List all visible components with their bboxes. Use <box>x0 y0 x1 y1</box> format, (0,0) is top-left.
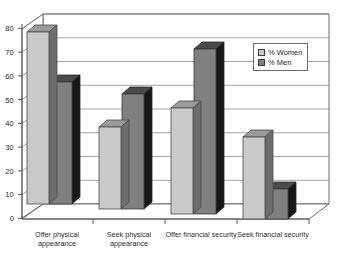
y-tick-label-60: 60 <box>0 72 14 81</box>
x-category-label-0: Offer physical appearance <box>16 230 98 248</box>
legend-swatch-women-icon <box>258 49 265 56</box>
legend-label-women: % Women <box>268 48 302 57</box>
bar-chart: 0 10 20 30 40 50 60 70 80 <box>0 0 344 276</box>
chart-legend: % Women % Men <box>253 43 308 71</box>
y-tick-label-30: 30 <box>0 143 14 152</box>
x-category-label-2: Offer financial security <box>160 230 242 239</box>
bar-women-seek-financial-security <box>243 138 265 219</box>
legend-swatch-men-icon <box>258 59 265 66</box>
y-tick-label-10: 10 <box>0 190 14 199</box>
legend-item-women: % Women <box>258 47 302 57</box>
x-category-label-3: Seek financial security <box>232 230 314 239</box>
x-category-label-1: Seek physical appearance <box>88 230 170 248</box>
bar-women-offer-physical-appearance <box>27 33 49 204</box>
y-tick-label-20: 20 <box>0 167 14 176</box>
y-tick-marks <box>18 28 22 218</box>
x-tick-marks <box>93 219 309 224</box>
y-tick-label-50: 50 <box>0 96 14 105</box>
y-tick-label-0: 0 <box>0 214 14 223</box>
bar-women-seek-physical-appearance <box>99 128 121 209</box>
y-tick-label-40: 40 <box>0 119 14 128</box>
y-tick-label-70: 70 <box>0 48 14 57</box>
bar-women-offer-financial-security <box>171 109 193 214</box>
legend-label-men: % Men <box>268 58 291 67</box>
y-tick-label-80: 80 <box>0 24 14 33</box>
legend-item-men: % Men <box>258 57 302 67</box>
